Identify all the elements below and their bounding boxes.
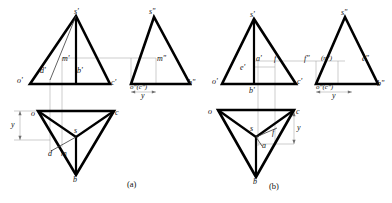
label-a-m-double-prime: m"	[157, 55, 166, 63]
part-b-top-spokes	[218, 110, 294, 177]
label-b-e-prime: e'	[240, 64, 245, 72]
label-a-c-prime: c'	[111, 79, 116, 87]
part-a-side-view-outline	[131, 17, 190, 84]
label-b-f-top: f	[272, 129, 274, 137]
dim-label-a-y-side: y	[141, 92, 145, 100]
label-b-b-prime: b'	[249, 87, 255, 95]
dim-label-a-y-left: y	[11, 121, 15, 129]
part-b-front-view-outline	[222, 19, 296, 84]
label-b-b-top: b	[253, 178, 257, 186]
label-a-d-prime: d'	[40, 67, 46, 75]
label-b-s-prime: s'	[250, 11, 255, 19]
part-a-top-spokes	[38, 111, 114, 175]
label-a-c-top: c	[115, 109, 119, 117]
label-a-s-top: s	[74, 127, 77, 135]
part-b-side-view-outline	[316, 17, 378, 84]
label-a-m-top: m	[61, 150, 67, 158]
label-a-o-c-double-prime: o"(c")	[130, 84, 147, 91]
label-a-s-double-prime: s"	[149, 8, 155, 16]
label-b-e-double-prime: e"	[362, 55, 369, 63]
label-a-b-top: b	[73, 176, 77, 184]
part-b-group	[218, 17, 378, 177]
dim-label-b-y-side: y	[332, 92, 336, 100]
part-b-projection-lines	[254, 61, 352, 146]
label-b-s-double-prime: s"	[341, 9, 347, 17]
label-b-o-top: o	[208, 108, 212, 116]
label-b-o-prime: o'	[212, 78, 218, 86]
label-b-c-prime: c'	[297, 78, 302, 86]
label-b-b-double-prime: b"	[377, 80, 384, 88]
label-b-f-double-prime: f"	[304, 55, 310, 63]
caption-part-b: (b)	[269, 182, 279, 191]
label-b-n-double-prime: (n")	[321, 55, 332, 62]
label-b-f-prime: f'	[274, 55, 278, 63]
label-a-d-top: d	[48, 150, 52, 158]
label-a-b-prime: b'	[77, 67, 83, 75]
label-b-o-c-double-prime: o"(c")	[316, 84, 333, 91]
label-a-o-prime: o'	[17, 77, 23, 85]
label-b-s-top: s	[250, 125, 253, 133]
label-a-s-prime: s'	[74, 8, 79, 16]
label-b-a-prime: a'	[256, 55, 262, 63]
dim-label-b-y-top: y	[297, 124, 301, 132]
label-b-c-top: c	[296, 108, 300, 116]
part-b-dim-arrows	[292, 90, 352, 144]
label-b-a-top: a	[262, 142, 266, 150]
label-a-b-double-prime: b"	[188, 79, 195, 87]
caption-part-a: (a)	[127, 180, 136, 189]
projection-drawing-svg	[0, 0, 392, 203]
label-a-o-top: o	[31, 110, 35, 118]
part-a-group	[14, 16, 190, 175]
engineering-drawing-figure: s' o' d' m' b' c' s" m" o"(c") b" o s c …	[0, 0, 392, 203]
label-a-m-prime: m'	[62, 55, 70, 63]
